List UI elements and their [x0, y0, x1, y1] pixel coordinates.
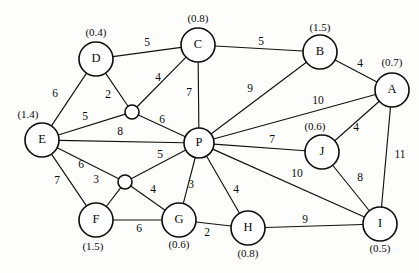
node-label-H: H [243, 220, 252, 234]
edge-weight-D-J1: 2 [105, 88, 111, 100]
node-label-B: B [316, 44, 324, 58]
junction-node-J1[interactable] [125, 105, 139, 119]
node-label-J: J [320, 144, 325, 158]
edge-weight-D-C: 5 [144, 36, 150, 48]
node-weight-C: (0.8) [187, 12, 208, 25]
node-weight-I: (0.5) [369, 242, 390, 255]
edge-weight-A-I: 11 [394, 148, 405, 160]
edge-weight-J2-G: 4 [150, 183, 156, 195]
node-label-A: A [387, 82, 396, 96]
node-weight-F: (1.5) [82, 240, 103, 253]
edge-weight-A-P: 10 [312, 94, 324, 106]
node-weight-H: (0.8) [237, 247, 258, 260]
node-label-E: E [38, 132, 46, 146]
graph-edge-E-P [59, 140, 184, 142]
edge-weight-P-I: 10 [291, 167, 303, 179]
edge-weight-F-G: 6 [136, 222, 142, 234]
edge-weight-A-J: 4 [353, 121, 359, 133]
graph-edge-P-J [214, 144, 305, 151]
node-label-C: C [194, 37, 202, 51]
node-label-P: P [196, 135, 203, 149]
node-label-I: I [378, 216, 382, 230]
node-label-F: F [93, 212, 100, 226]
graph-edge-C-B [215, 46, 303, 51]
node-label-D: D [91, 51, 100, 65]
graph-edge-D-C [113, 47, 181, 56]
edge-weight-E-J1: 5 [82, 110, 88, 122]
graph-edge-H-I [265, 225, 363, 228]
graph-edge-E-J2 [57, 148, 119, 179]
edge-weight-E-J2: 6 [78, 158, 84, 170]
graph-edge-J-I [333, 165, 370, 211]
node-weight-B: (1.5) [309, 21, 330, 34]
edge-weight-B-A: 4 [357, 57, 363, 69]
edge-weight-J1-P: 6 [159, 113, 165, 125]
edge-weight-P-G: 3 [188, 178, 194, 190]
edge-weight-C-B: 5 [258, 35, 264, 47]
edge-weight-B-P: 9 [247, 82, 253, 94]
graph-edge-E-J1 [58, 114, 125, 135]
graph-edge-C-J1 [137, 57, 186, 107]
junction-node-J2[interactable] [118, 175, 132, 189]
graph-edge-J2-G [131, 186, 165, 210]
edge-weight-H-I: 9 [302, 213, 308, 225]
edge-weight-E-P: 8 [117, 125, 123, 137]
graph-edge-J2-F [106, 188, 120, 207]
graph-edge-A-I [382, 107, 391, 207]
graph-edge-C-P [198, 62, 199, 128]
node-label-G: G [174, 212, 183, 226]
edge-weight-J2-F: 3 [93, 173, 99, 185]
graph-edge-B-A [335, 60, 377, 82]
edge-weight-C-P: 7 [186, 86, 192, 98]
edge-weight-J-I: 8 [357, 171, 363, 183]
network-graph: 554624756891041178106735463429D(0.4)C(0.… [0, 0, 419, 273]
graph-edge-G-H [196, 222, 231, 226]
edge-weight-J2-P: 5 [157, 148, 163, 160]
graph-edge-B-P [211, 62, 306, 134]
graph-diagram-canvas: 554624756891041178106735463429D(0.4)C(0.… [0, 0, 419, 273]
node-weight-E: (1.4) [17, 108, 38, 121]
edge-weight-G-H: 2 [204, 226, 210, 238]
edge-weight-P-H: 4 [233, 183, 239, 195]
node-weight-A: (0.7) [381, 56, 402, 69]
nodes-layer [25, 28, 409, 245]
node-weight-G: (0.6) [168, 238, 189, 251]
edge-weight-E-F: 7 [54, 174, 60, 186]
node-weight-D: (0.4) [85, 26, 106, 39]
edge-weight-D-E: 6 [52, 87, 58, 99]
edge-weight-P-J: 7 [269, 133, 275, 145]
node-weight-J: (0.6) [304, 120, 325, 133]
graph-edge-A-P [213, 95, 375, 140]
edge-weight-C-J1: 4 [155, 71, 161, 83]
